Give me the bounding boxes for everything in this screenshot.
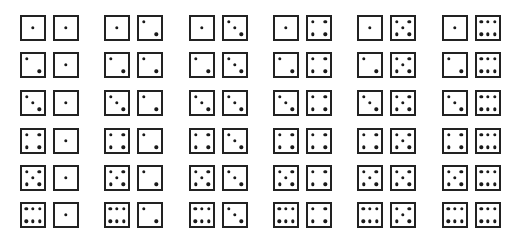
pip-dot-icon	[401, 213, 404, 216]
pip-dot-icon	[233, 213, 236, 216]
die-face-5	[390, 202, 416, 228]
pip-dot-icon	[407, 170, 410, 173]
die-face-4	[357, 128, 383, 154]
pip-dot-icon	[368, 219, 371, 222]
pip-dot-icon	[37, 182, 40, 185]
die-face-6	[442, 202, 468, 228]
dice-pair-6-2	[104, 202, 164, 228]
pip-dot-icon	[121, 69, 124, 72]
die-face-4	[273, 128, 299, 154]
dice-pair-1-2	[104, 15, 164, 41]
pip-dot-icon	[395, 32, 398, 35]
pip-dot-icon	[323, 207, 326, 210]
pip-dot-icon	[284, 101, 287, 104]
pip-dot-icon	[239, 219, 242, 222]
pip-dot-icon	[121, 182, 124, 185]
pip-dot-icon	[233, 101, 236, 104]
pip-dot-icon	[453, 207, 456, 210]
pip-dot-icon	[453, 26, 456, 29]
dice-outcomes-grid	[0, 0, 522, 239]
pip-dot-icon	[194, 145, 197, 148]
dice-pair-1-1	[20, 15, 80, 41]
pip-dot-icon	[31, 207, 34, 210]
pip-dot-icon	[291, 219, 294, 222]
pip-dot-icon	[200, 26, 203, 29]
pip-dot-icon	[480, 145, 483, 148]
pip-dot-icon	[407, 57, 410, 60]
pip-dot-icon	[284, 26, 287, 29]
pip-dot-icon	[311, 170, 314, 173]
pip-dot-icon	[395, 207, 398, 210]
die-face-2	[104, 52, 130, 78]
pip-dot-icon	[206, 182, 209, 185]
pip-dot-icon	[37, 145, 40, 148]
pip-dot-icon	[227, 170, 230, 173]
pip-dot-icon	[200, 101, 203, 104]
pip-dot-icon	[25, 145, 28, 148]
pip-dot-icon	[25, 57, 28, 60]
pip-dot-icon	[323, 133, 326, 136]
pip-dot-icon	[311, 32, 314, 35]
pip-dot-icon	[486, 20, 489, 23]
die-face-4	[306, 52, 332, 78]
pip-dot-icon	[227, 207, 230, 210]
dice-pair-5-4	[273, 165, 333, 191]
pip-dot-icon	[486, 95, 489, 98]
pip-dot-icon	[460, 219, 463, 222]
pip-dot-icon	[362, 133, 365, 136]
pip-dot-icon	[480, 32, 483, 35]
pip-dot-icon	[121, 170, 124, 173]
pip-dot-icon	[311, 207, 314, 210]
pip-dot-icon	[194, 133, 197, 136]
pip-dot-icon	[38, 207, 41, 210]
dice-pair-4-3	[189, 128, 249, 154]
dice-pair-3-3	[189, 90, 249, 116]
pip-dot-icon	[401, 63, 404, 66]
dice-pair-5-3	[189, 165, 249, 191]
pip-dot-icon	[480, 182, 483, 185]
pip-dot-icon	[480, 207, 483, 210]
pip-dot-icon	[142, 207, 145, 210]
die-face-5	[442, 165, 468, 191]
pip-dot-icon	[486, 170, 489, 173]
pip-dot-icon	[206, 133, 209, 136]
pip-dot-icon	[453, 101, 456, 104]
pip-dot-icon	[401, 26, 404, 29]
pip-dot-icon	[154, 145, 157, 148]
dice-pair-6-6	[442, 202, 502, 228]
die-face-5	[104, 165, 130, 191]
pip-dot-icon	[486, 219, 489, 222]
dice-pair-4-2	[104, 128, 164, 154]
pip-dot-icon	[480, 219, 483, 222]
pip-dot-icon	[233, 176, 236, 179]
pip-dot-icon	[323, 219, 326, 222]
die-face-4	[306, 15, 332, 41]
dice-pair-6-5	[357, 202, 417, 228]
pip-dot-icon	[207, 219, 210, 222]
pip-dot-icon	[480, 20, 483, 23]
dice-pair-6-1	[20, 202, 80, 228]
pip-dot-icon	[194, 57, 197, 60]
die-face-5	[20, 165, 46, 191]
die-face-6	[273, 202, 299, 228]
pip-dot-icon	[395, 95, 398, 98]
pip-dot-icon	[154, 219, 157, 222]
pip-dot-icon	[459, 170, 462, 173]
pip-dot-icon	[31, 26, 34, 29]
pip-dot-icon	[459, 133, 462, 136]
pip-dot-icon	[278, 95, 281, 98]
pip-dot-icon	[194, 207, 197, 210]
pip-dot-icon	[278, 57, 281, 60]
pip-dot-icon	[362, 145, 365, 148]
pip-dot-icon	[323, 182, 326, 185]
pip-dot-icon	[323, 69, 326, 72]
die-face-2	[137, 52, 163, 78]
pip-dot-icon	[486, 32, 489, 35]
pip-dot-icon	[200, 219, 203, 222]
pip-dot-icon	[374, 170, 377, 173]
pip-dot-icon	[109, 133, 112, 136]
pip-dot-icon	[25, 182, 28, 185]
pip-dot-icon	[233, 26, 236, 29]
pip-dot-icon	[278, 145, 281, 148]
die-face-5	[390, 52, 416, 78]
